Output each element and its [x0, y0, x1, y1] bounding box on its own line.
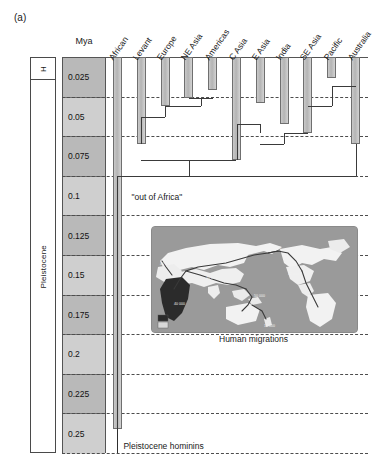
- branch-out-of-africa: [189, 176, 356, 177]
- figure-panel-a: (a) H Pleistocene Mya 0.0250.050.0750.10…: [0, 0, 376, 465]
- gridline-0.1: [62, 215, 368, 216]
- scale-title: Mya: [63, 36, 105, 46]
- map-route-label: 15 000: [264, 324, 275, 328]
- mya-tick-0.075: 0.075: [63, 137, 105, 177]
- branch-seasia-pacific: [308, 106, 332, 107]
- branch-europe-clade: [165, 106, 201, 107]
- out-of-africa-annotation: "out of Africa": [131, 192, 182, 202]
- stem-casia: [237, 124, 238, 160]
- population-bar-se-asia: [303, 57, 312, 133]
- branch-india-seasia: [284, 133, 308, 134]
- branch-casia-easia: [237, 124, 261, 125]
- mya-tick-0.2: 0.2: [63, 335, 105, 375]
- population-bar-australia: [351, 57, 360, 144]
- population-bar-india: [280, 57, 289, 124]
- gridline-0.225: [62, 413, 368, 414]
- pleistocene-hominin-stem: [117, 429, 118, 453]
- stem-easia: [260, 124, 261, 134]
- map-route-label: 12 000: [288, 272, 299, 276]
- map-caption: Human migrations: [151, 334, 356, 344]
- population-bar-europe: [161, 57, 170, 106]
- mya-tick-0.175: 0.175: [63, 296, 105, 336]
- pleistocene-hominins-annotation: Pleistocene hominins: [123, 441, 203, 451]
- branch-african-root: [117, 176, 188, 177]
- panel-label: (a): [14, 12, 26, 23]
- human-migrations-map: 40 000 15 000 40 000 11 000 12 000 40 00…: [151, 226, 358, 333]
- population-bar-americas: [208, 57, 217, 90]
- branch-levant-clade: [141, 117, 165, 118]
- stem-australia: [356, 144, 357, 176]
- epoch-holocene-label: H: [39, 66, 48, 72]
- mya-tick-0.25: 0.25: [63, 414, 105, 454]
- map-route-label: 11 000: [270, 246, 281, 250]
- map-route-label: 40 000: [206, 276, 217, 280]
- mya-tick-0.025: 0.025: [63, 58, 105, 98]
- epoch-holocene: H: [31, 58, 55, 80]
- mya-tick-0.15: 0.15: [63, 256, 105, 296]
- stem-eurasian-root: [189, 160, 190, 176]
- stem-levant-clade: [141, 117, 142, 144]
- mya-tick-0.225: 0.225: [63, 375, 105, 415]
- branch-asia-clade: [260, 144, 284, 145]
- map-route-label: 15 000: [198, 256, 209, 260]
- epoch-column: H Pleistocene: [30, 57, 56, 453]
- stem-pacific: [332, 86, 333, 107]
- map-route-label: 60 000: [230, 312, 241, 316]
- mya-tick-0.125: 0.125: [63, 216, 105, 256]
- population-bar-e-asia: [256, 57, 265, 103]
- stem-african: [117, 176, 118, 429]
- mya-tick-0.05: 0.05: [63, 98, 105, 138]
- mya-tick-0.1: 0.1: [63, 177, 105, 217]
- gridline-0.025: [62, 97, 368, 98]
- gridline-0.25: [62, 453, 368, 454]
- stem-india-clade: [284, 133, 285, 144]
- epoch-pleistocene: Pleistocene: [31, 80, 55, 453]
- epoch-pleistocene-label: Pleistocene: [39, 245, 48, 289]
- map-route-label: 40 000: [174, 302, 185, 306]
- gridline-0.05: [62, 136, 368, 137]
- map-route-label: 50 000: [254, 294, 265, 298]
- stem-europe-clade: [165, 106, 166, 117]
- stem-neasia-americas: [201, 98, 202, 106]
- map-route-label: 40 000: [160, 262, 171, 266]
- population-bar-ne-asia: [184, 57, 193, 98]
- gridline-0.2: [62, 374, 368, 375]
- map-graphic: 40 000 15 000 40 000 11 000 12 000 40 00…: [152, 227, 357, 332]
- branch-pacific-australia: [332, 86, 356, 87]
